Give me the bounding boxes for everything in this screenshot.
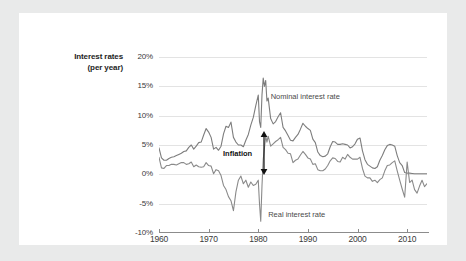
annotation-inflation-label: Inflation bbox=[223, 149, 252, 158]
series-lines bbox=[159, 57, 427, 233]
y-axis-title-line1: Interest rates bbox=[19, 51, 123, 62]
x-axis-tick-label: 1980 bbox=[238, 234, 278, 244]
y-axis-tick-label: 15% bbox=[119, 81, 153, 90]
x-axis-tick-label: 2010 bbox=[387, 234, 427, 244]
series-label-real-interest-rate: Real interest rate bbox=[268, 210, 325, 219]
chart-card: Interest rates (per year) 20%15%10%5%0%-… bbox=[19, 13, 447, 245]
y-axis-tick-label: 5% bbox=[119, 140, 153, 149]
plot-area bbox=[159, 57, 427, 233]
inflation-double-arrow-icon bbox=[257, 131, 271, 175]
series-label-nominal-interest-rate: Nominal interest rate bbox=[271, 92, 340, 101]
y-axis-title: Interest rates (per year) bbox=[19, 51, 123, 73]
x-axis-tick-label: 1970 bbox=[189, 234, 229, 244]
series-line bbox=[159, 136, 427, 221]
y-axis-tick-label: 0% bbox=[119, 169, 153, 178]
x-axis-tick-label: 1960 bbox=[139, 234, 179, 244]
y-axis-tick-label: -5% bbox=[119, 199, 153, 208]
y-axis-title-line2: (per year) bbox=[19, 62, 123, 73]
x-axis-tick-label: 2000 bbox=[338, 234, 378, 244]
y-axis-tick-label: 10% bbox=[119, 111, 153, 120]
y-axis-tick-label: 20% bbox=[119, 52, 153, 61]
x-axis-tick-label: 1990 bbox=[288, 234, 328, 244]
